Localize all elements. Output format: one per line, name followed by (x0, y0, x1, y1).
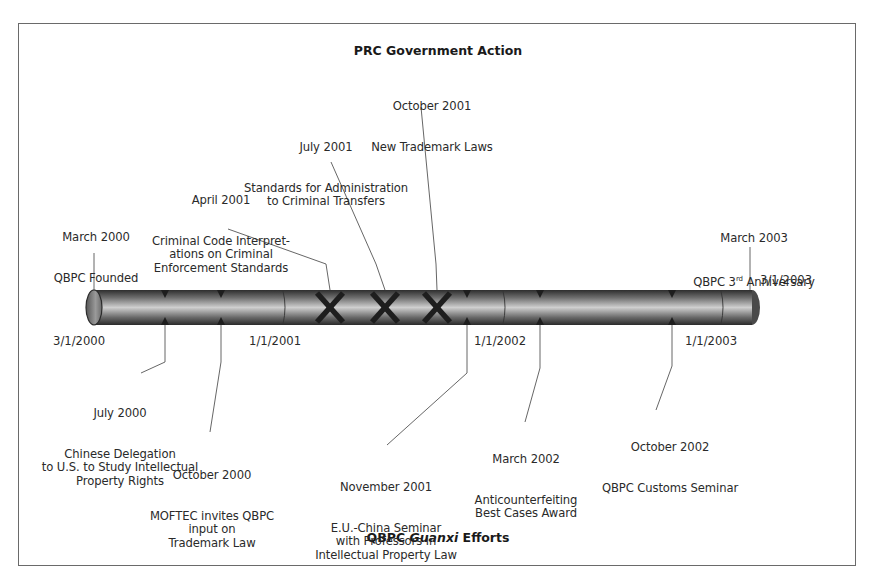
event-november-2001: November 2001 E.U.-China Seminar with Pr… (315, 454, 457, 576)
event-text: QBPC 3rd Anniversary (693, 273, 815, 289)
event-date: March 2003 (693, 232, 815, 246)
event-text: New Trademark Laws (371, 141, 493, 155)
leader-lines-bottom (141, 325, 672, 445)
event-text: QBPC Customs Seminar (602, 482, 738, 496)
event-text-main: QBPC 3 (693, 274, 736, 288)
event-text: Criminal Code Interpret- ations on Crimi… (152, 235, 290, 276)
event-text: Anticounterfeiting Best Cases Award (475, 494, 578, 521)
event-text-sup: rd (736, 275, 743, 283)
event-date: October 2000 (150, 469, 274, 483)
event-march-2000: March 2000 QBPC Founded (54, 204, 139, 299)
event-october-2001: October 2001 New Trademark Laws (371, 73, 493, 168)
event-october-2002: October 2002 QBPC Customs Seminar (602, 414, 738, 509)
event-text: Standards for Administration to Criminal… (244, 182, 408, 209)
event-date: November 2001 (315, 481, 457, 495)
event-text: QBPC Founded (54, 272, 139, 286)
axis-date-start: 3/1/2000 (53, 334, 105, 348)
event-date: October 2002 (602, 441, 738, 455)
event-date: October 2001 (371, 100, 493, 114)
axis-date-2002: 1/1/2002 (474, 334, 526, 348)
event-text: MOFTEC invites QBPC input on Trademark L… (150, 510, 274, 551)
event-march-2002: March 2002 Anticounterfeiting Best Cases… (475, 426, 578, 534)
event-date: March 2002 (475, 453, 578, 467)
event-text-tail: Anniversary (743, 274, 815, 288)
event-text: E.U.-China Seminar with Professors in In… (315, 522, 457, 563)
axis-date-2003: 1/1/2003 (685, 334, 737, 348)
event-date: July 2000 (42, 407, 198, 421)
event-october-2000: October 2000 MOFTEC invites QBPC input o… (150, 442, 274, 564)
axis-date-2001: 1/1/2001 (249, 334, 301, 348)
event-march-2003: March 2003 QBPC 3rd Anniversary (693, 205, 815, 302)
event-date: March 2000 (54, 231, 139, 245)
